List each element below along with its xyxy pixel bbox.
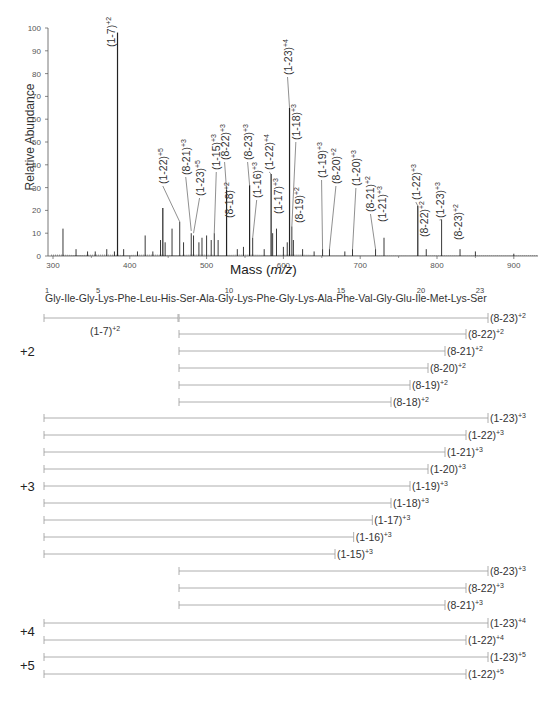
peak-annotation: (8-19)+2 xyxy=(293,187,305,223)
peak-annotation: (1-23)+4 xyxy=(282,39,294,75)
y-tick-label: 20 xyxy=(32,206,41,215)
fragment-label: (8-21)+3 xyxy=(447,599,483,611)
peak-annotation: (1-7)+2 xyxy=(105,17,117,47)
fragment-label: (1-18)+3 xyxy=(393,497,429,509)
fragment-label: (1-16)+3 xyxy=(356,531,392,543)
fragment-coverage-map: Gly-Ile-Gly-Lys-Phe-Leu-His-Ser-Ala-Gly-… xyxy=(0,280,548,701)
annotation-leader-line xyxy=(253,200,257,238)
peak-annotation: (8-22)+2 xyxy=(418,201,430,237)
peak-annotation: (8-22)+3 xyxy=(219,124,231,160)
residue-number: 23 xyxy=(476,286,484,295)
annotation-leader-line xyxy=(322,180,323,249)
fragment-label: (1-22)+3 xyxy=(468,429,504,441)
x-tick-label: 400 xyxy=(123,261,137,270)
y-tick-label: 100 xyxy=(28,24,42,33)
peak-annotation: (8-23)+2 xyxy=(452,204,464,240)
annotation-leader-line xyxy=(329,186,335,249)
peak-annotation: (1-22)+4 xyxy=(263,134,275,170)
x-tick-label: 700 xyxy=(354,261,368,270)
fragment-label: (1-20)+3 xyxy=(430,463,466,475)
fragment-label: (1-23)+4 xyxy=(490,617,526,629)
residue-number: 20 xyxy=(417,286,425,295)
peak-annotation: (1-16)+3 xyxy=(251,162,263,198)
mass-spectrum-chart: 0102030405060708090100300400500600700800… xyxy=(0,0,548,280)
annotation-leader-line xyxy=(370,214,375,249)
peak-annotation: (1-22)+3 xyxy=(410,164,422,200)
fragment-label: (1-7)+2 xyxy=(90,325,120,337)
fragment-label: (8-18)+2 xyxy=(393,396,429,408)
x-tick-label: 900 xyxy=(507,261,521,270)
annotation-leader-line xyxy=(214,172,216,233)
charge-state-label: +4 xyxy=(20,624,35,639)
x-axis-label: Mass (m/z) xyxy=(230,262,297,277)
peak-annotation: (8-23)+3 xyxy=(242,124,254,160)
fragment-label: (8-22)+3 xyxy=(468,582,504,594)
charge-state-label: +2 xyxy=(20,344,35,359)
annotation-leader-line xyxy=(269,172,271,174)
x-axis-label-prefix: Mass ( xyxy=(230,262,271,277)
annotation-leader-line xyxy=(163,186,180,222)
charge-state-label: +3 xyxy=(20,479,35,494)
fragment-label: (8-23)+3 xyxy=(490,565,526,577)
peak-annotation: (1-21)+3 xyxy=(376,186,388,222)
peak-annotation: (1-22)+5 xyxy=(157,148,169,184)
peak-annotation: (8-21)+3 xyxy=(180,139,192,175)
fragment-label: (1-17)+3 xyxy=(374,514,410,526)
annotation-leader-line xyxy=(194,198,200,233)
annotation-leader-line xyxy=(288,77,290,108)
peak-annotation: (1-18)+3 xyxy=(290,104,302,140)
y-tick-label: 90 xyxy=(32,47,41,56)
fragment-label: (1-15)+3 xyxy=(337,548,373,560)
annotation-leader-line xyxy=(186,177,192,231)
fragment-label: (8-22)+2 xyxy=(468,328,504,340)
fragment-label: (1-22)+4 xyxy=(468,634,504,646)
peak-annotation: (8-18)+2 xyxy=(223,182,235,218)
fragment-label: (8-23)+2 xyxy=(490,312,526,324)
y-tick-label: 10 xyxy=(32,229,41,238)
peak-annotation: (1-20)+3 xyxy=(350,150,362,186)
peak-annotation: (1-17)+3 xyxy=(272,178,284,214)
x-tick-label: 500 xyxy=(200,261,214,270)
fragment-label: (8-19)+2 xyxy=(412,379,448,391)
charge-state-label: +5 xyxy=(20,658,35,673)
y-tick-label: 0 xyxy=(37,252,42,261)
peak-annotation: (1-23)+3 xyxy=(434,182,446,218)
residue-number: 10 xyxy=(225,286,233,295)
x-axis-label-suffix: ) xyxy=(292,262,297,277)
fragment-label: (8-20)+2 xyxy=(430,362,466,374)
x-tick-label: 800 xyxy=(430,261,444,270)
peak-annotation: (8-20)+2 xyxy=(330,148,342,184)
fragment-label: (1-22)+5 xyxy=(468,668,504,680)
x-axis-label-unit: m/z xyxy=(271,262,293,277)
annotation-leader-line xyxy=(248,162,250,185)
fragment-label: (1-21)+3 xyxy=(447,446,483,458)
y-axis-label: Relative Abundance xyxy=(23,77,37,197)
fragment-label: (8-21)+2 xyxy=(447,345,483,357)
fragment-label: (1-19)+3 xyxy=(412,480,448,492)
x-tick-label: 300 xyxy=(46,261,60,270)
residue-number: 1 xyxy=(45,286,49,295)
peak-annotation: (1-23)+5 xyxy=(194,160,206,196)
peak-annotation: (1-19)+3 xyxy=(316,142,328,178)
annotation-leader-line xyxy=(353,188,356,249)
residue-number: 5 xyxy=(96,286,100,295)
fragment-label: (1-23)+5 xyxy=(490,651,526,663)
residue-number: 15 xyxy=(337,286,345,295)
peak-annotation: (8-21)+2 xyxy=(364,176,376,212)
fragment-label: (1-23)+3 xyxy=(490,412,526,424)
